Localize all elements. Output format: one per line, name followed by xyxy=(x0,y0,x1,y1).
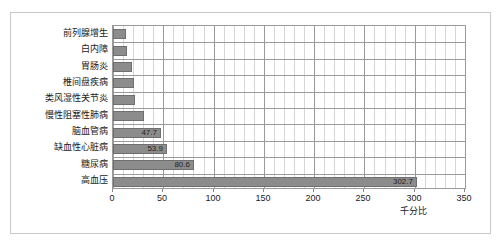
plot-area: 47.753.980.6302.7 xyxy=(112,25,466,189)
x-tick-label: 150 xyxy=(255,192,270,204)
gridline-minor-vertical xyxy=(405,26,406,188)
category-tick-mark xyxy=(105,164,108,165)
x-tick-label: 100 xyxy=(205,192,220,204)
bar xyxy=(113,78,134,88)
category-label: 白内障 xyxy=(4,44,108,55)
gridline-major-vertical xyxy=(364,26,365,188)
category-tick-mark xyxy=(105,50,108,51)
bar-value-label: 53.9 xyxy=(127,144,163,154)
x-tick-label: 350 xyxy=(456,192,471,204)
x-tick-mark xyxy=(112,189,113,192)
x-tick-label: 0 xyxy=(109,192,114,204)
x-tick-mark xyxy=(414,189,415,192)
gridline-major-vertical xyxy=(264,26,265,188)
gridline-major-vertical xyxy=(314,26,315,188)
x-tick-label: 50 xyxy=(157,192,167,204)
category-tick-mark xyxy=(105,181,108,182)
gridline-horizontal xyxy=(113,174,465,175)
gridline-horizontal xyxy=(113,75,465,76)
gridline-minor-vertical xyxy=(455,26,456,188)
category-tick-mark xyxy=(105,132,108,133)
gridline-minor-vertical xyxy=(385,26,386,188)
gridline-minor-vertical xyxy=(254,26,255,188)
bar-value-label: 80.6 xyxy=(154,160,190,170)
category-axis: 前列腺增生白内障胃肠炎椎间盘疾病类风湿性关节炎慢性阻塞性肺病脑血管病缺血性心脏病… xyxy=(0,25,108,189)
gridline-major-vertical xyxy=(214,26,215,188)
x-axis-tick-labels: 050100150200250300350 xyxy=(112,192,466,206)
gridline-horizontal xyxy=(113,59,465,60)
category-tick-mark xyxy=(105,33,108,34)
gridline-minor-vertical xyxy=(244,26,245,188)
category-label: 高血压 xyxy=(4,175,108,186)
x-tick-mark xyxy=(313,189,314,192)
category-label: 缺血性心脏病 xyxy=(4,142,108,153)
gridline-minor-vertical xyxy=(344,26,345,188)
gridline-horizontal xyxy=(113,157,465,158)
x-tick-label: 200 xyxy=(305,192,320,204)
gridline-horizontal xyxy=(113,124,465,125)
x-tick-mark xyxy=(213,189,214,192)
bar xyxy=(113,95,135,105)
category-label: 糖尿病 xyxy=(4,159,108,170)
gridline-minor-vertical xyxy=(234,26,235,188)
gridline-minor-vertical xyxy=(224,26,225,188)
gridline-minor-vertical xyxy=(324,26,325,188)
x-tick-label: 300 xyxy=(406,192,421,204)
gridline-minor-vertical xyxy=(425,26,426,188)
gridline-major-vertical xyxy=(465,26,466,188)
gridline-minor-vertical xyxy=(204,26,205,188)
category-tick-mark xyxy=(105,82,108,83)
gridline-horizontal xyxy=(113,141,465,142)
bar-value-label: 302.7 xyxy=(377,177,413,187)
gridline-minor-vertical xyxy=(354,26,355,188)
gridline-minor-vertical xyxy=(304,26,305,188)
x-tick-mark xyxy=(464,189,465,192)
chart-root: 前列腺增生白内障胃肠炎椎间盘疾病类风湿性关节炎慢性阻塞性肺病脑血管病缺血性心脏病… xyxy=(0,0,503,250)
gridline-minor-vertical xyxy=(445,26,446,188)
gridline-minor-vertical xyxy=(284,26,285,188)
bar xyxy=(113,62,132,72)
x-tick-label: 250 xyxy=(355,192,370,204)
gridline-horizontal xyxy=(113,42,465,43)
bar xyxy=(113,46,127,56)
category-label: 胃肠炎 xyxy=(4,61,108,72)
bar xyxy=(113,111,144,121)
category-label: 前列腺增生 xyxy=(4,28,108,39)
gridline-minor-vertical xyxy=(274,26,275,188)
category-label: 慢性阻塞性肺病 xyxy=(4,110,108,121)
category-tick-mark xyxy=(105,115,108,116)
x-tick-mark xyxy=(263,189,264,192)
gridline-major-vertical xyxy=(415,26,416,188)
category-tick-mark xyxy=(105,148,108,149)
gridline-minor-vertical xyxy=(334,26,335,188)
x-tick-mark xyxy=(162,189,163,192)
gridline-horizontal xyxy=(113,92,465,93)
category-tick-mark xyxy=(105,66,108,67)
bar xyxy=(113,177,417,187)
category-label: 脑血管病 xyxy=(4,126,108,137)
gridline-minor-vertical xyxy=(395,26,396,188)
gridline-horizontal xyxy=(113,108,465,109)
category-label: 椎间盘疾病 xyxy=(4,77,108,88)
category-label: 类风湿性关节炎 xyxy=(4,93,108,104)
x-axis-title: 千分比 xyxy=(400,205,427,217)
category-tick-mark xyxy=(105,99,108,100)
gridline-minor-vertical xyxy=(374,26,375,188)
gridline-minor-vertical xyxy=(294,26,295,188)
x-tick-mark xyxy=(363,189,364,192)
gridline-minor-vertical xyxy=(435,26,436,188)
bar xyxy=(113,29,126,39)
bar-value-label: 47.7 xyxy=(121,128,157,138)
